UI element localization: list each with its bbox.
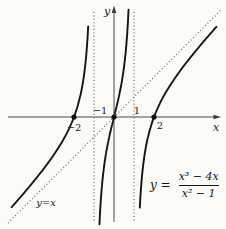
x-intercept-dot [111,114,116,119]
equation-denominator: x² − 1 [179,185,219,201]
tick-label-1: 1 [134,106,140,116]
tick-label-neg2: −2 [67,123,82,133]
equation-numerator: x³ − 4x [176,170,222,185]
tick-label-2: 2 [157,121,163,131]
equation-label: y = x³ − 4x x² − 1 [150,170,222,201]
equation-fraction: x³ − 4x x² − 1 [176,170,222,201]
y-axis-label: y [104,6,110,17]
y-axis-arrowhead-icon [112,6,117,14]
x-intercept-dot [151,114,156,119]
tick-label-neg1: −1 [93,106,108,116]
x-axis-arrowhead-icon [214,115,222,120]
oblique-asymptote-label: y=x [36,198,56,208]
x-axis-label: x [213,122,219,133]
x-intercept-dot [71,114,76,119]
equation-lhs: y = [150,178,171,193]
function-plot-figure: y x −2 −1 1 2 y=x y = x³ − 4x x² − 1 [0,0,226,229]
